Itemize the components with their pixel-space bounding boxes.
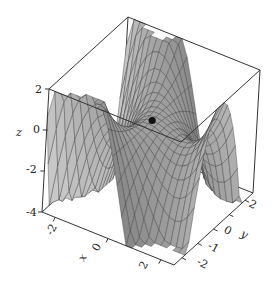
- z-tick-2: 2: [35, 83, 42, 96]
- x-tick-2: 2: [136, 259, 151, 272]
- surface-plot: 2 0 -2 -4 z -2 0 2 x -2 -1 0 2 y: [0, 0, 271, 285]
- critical-point-dot: [149, 117, 156, 124]
- y-tick-neg2: -2: [195, 255, 211, 272]
- z-tick-0: 0: [33, 123, 40, 136]
- y-tick-0: 0: [222, 223, 234, 238]
- z-tick-neg2: -2: [26, 163, 37, 176]
- x-tick-neg2: -2: [43, 222, 60, 238]
- z-tick-neg4: -4: [26, 206, 37, 219]
- x-tick-0: 0: [89, 241, 104, 254]
- z-axis-label: z: [15, 126, 22, 139]
- x-axis-label: x: [75, 251, 90, 264]
- surface-mesh: [47, 19, 242, 255]
- y-tick-neg1: -1: [206, 239, 222, 256]
- y-axis-label: y: [238, 227, 251, 242]
- y-tick-2: 2: [247, 197, 259, 212]
